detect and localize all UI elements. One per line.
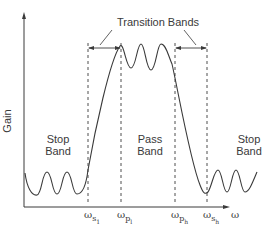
marker-wph: ωph (171, 209, 188, 225)
transition-arrows (88, 30, 207, 50)
gain-curve (25, 44, 257, 195)
region-line2: Band (130, 145, 170, 157)
pass-band-label: Pass Band (130, 133, 170, 157)
x-axis-arrow-icon (223, 205, 230, 209)
region-line1: Pass (130, 133, 170, 145)
stop-band-left-label: Stop Band (38, 133, 78, 157)
region-line2: Band (38, 145, 78, 157)
axes (22, 12, 230, 209)
x-axis-label: ω (231, 209, 239, 220)
arrow-left-icon (175, 46, 181, 50)
marker-wsh: ωsh (203, 209, 219, 225)
marker-wp1: ωpl (117, 209, 132, 225)
y-axis-label: Gain (1, 106, 13, 136)
bandpass-diagram (0, 0, 277, 232)
cutoff-lines (88, 43, 207, 205)
transition-bands-label: Transition Bands (108, 16, 208, 28)
region-line1: Stop (38, 133, 78, 145)
marker-ws1: ωs1 (84, 209, 100, 225)
region-line1: Stop (229, 133, 269, 145)
arrow-left-icon (88, 46, 94, 50)
arrow-right-icon (201, 46, 207, 50)
y-axis-arrow-icon (22, 12, 26, 19)
stop-band-right-label: Stop Band (229, 133, 269, 157)
region-line2: Band (229, 145, 269, 157)
